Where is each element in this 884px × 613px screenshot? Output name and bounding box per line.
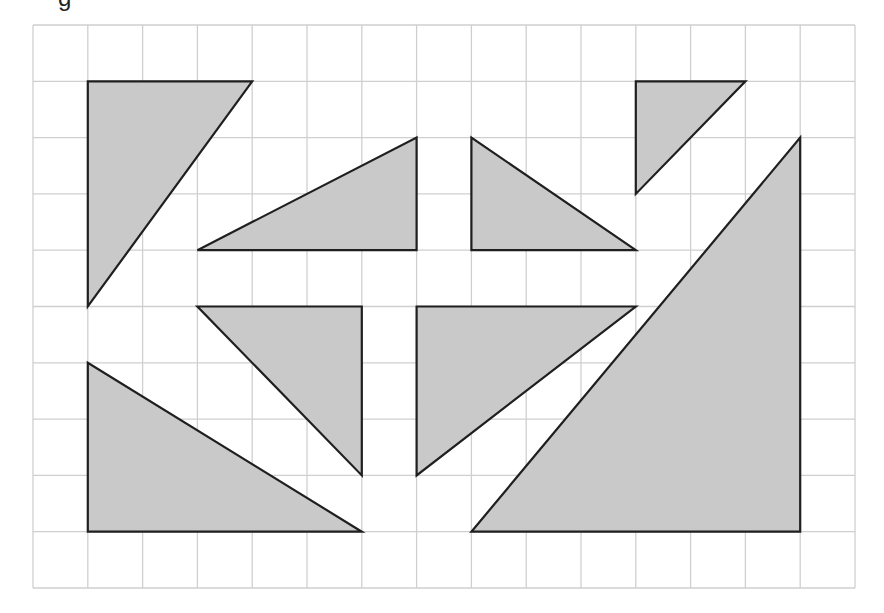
grid-diagram	[0, 0, 884, 613]
